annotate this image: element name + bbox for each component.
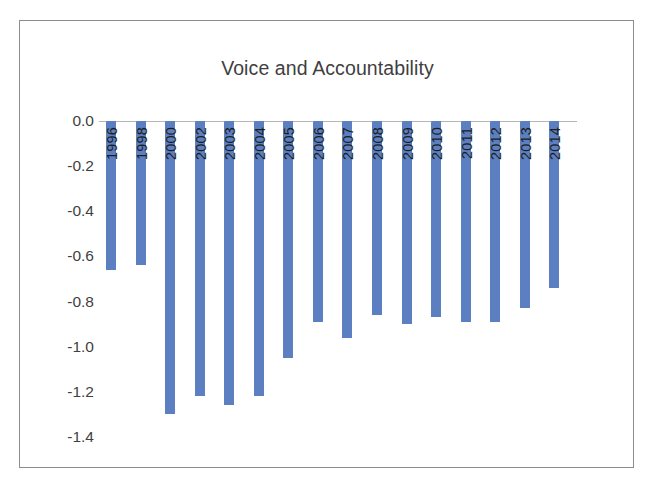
chart-frame: Voice and Accountability 0.0-0.2-0.4-0.6…	[19, 20, 634, 468]
bar-2004	[254, 121, 264, 396]
category-label-2006: 2006	[312, 127, 327, 160]
y-axis-tick--0.4: -0.4	[20, 202, 94, 220]
y-axis-tick--0.6: -0.6	[20, 247, 94, 265]
y-axis-tick--0.8: -0.8	[20, 293, 94, 311]
category-label-2014: 2014	[548, 127, 563, 160]
category-label-2008: 2008	[371, 127, 386, 160]
category-label-2012: 2012	[489, 127, 504, 160]
category-label-2000: 2000	[164, 127, 179, 160]
y-axis-tick-0.0: 0.0	[20, 112, 94, 130]
category-label-2003: 2003	[223, 127, 238, 160]
category-label-2011: 2011	[460, 127, 475, 159]
category-label-2002: 2002	[194, 127, 209, 160]
category-label-2007: 2007	[341, 127, 356, 160]
bar-2000	[165, 121, 175, 414]
y-axis-tick--0.2: -0.2	[20, 157, 94, 175]
plot-area: 0.0-0.2-0.4-0.6-0.8-1.0-1.2-1.4 19961998…	[20, 21, 635, 469]
bar-2003	[224, 121, 234, 405]
category-label-2005: 2005	[282, 127, 297, 160]
category-label-1998: 1998	[135, 127, 150, 160]
category-label-2013: 2013	[519, 127, 534, 160]
category-label-1996: 1996	[105, 127, 120, 160]
category-label-2010: 2010	[430, 127, 445, 160]
y-axis-tick--1.0: -1.0	[20, 338, 94, 356]
category-label-2009: 2009	[401, 127, 416, 160]
chart-figure: Voice and Accountability 0.0-0.2-0.4-0.6…	[0, 0, 649, 492]
y-axis-tick--1.2: -1.2	[20, 383, 94, 401]
category-label-2004: 2004	[253, 127, 268, 160]
y-axis-tick--1.4: -1.4	[20, 428, 94, 446]
bar-2002	[195, 121, 205, 396]
